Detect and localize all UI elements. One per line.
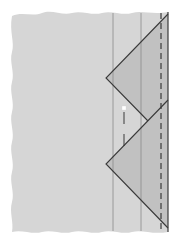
marker-square bbox=[122, 106, 126, 110]
fold-diagram bbox=[0, 0, 180, 240]
